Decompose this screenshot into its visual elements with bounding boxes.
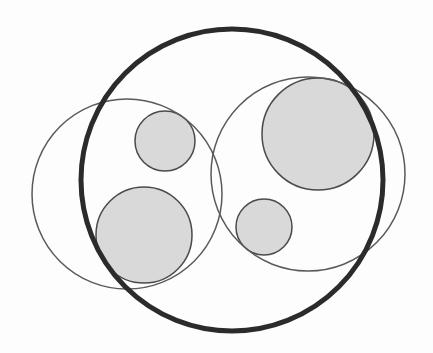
circle-diagram (0, 0, 433, 353)
filled-circles-group (96, 78, 374, 283)
diagram-canvas (0, 0, 433, 353)
